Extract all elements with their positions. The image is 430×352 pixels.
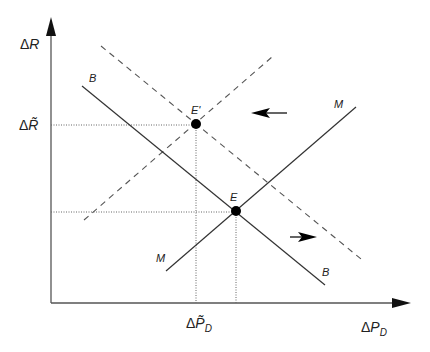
b-shifted-curve [101,46,361,259]
label-b-bottom: B [322,266,329,278]
m-shifted-curve [84,57,272,220]
label-m-bottom: M [156,252,166,264]
label-b-top: B [89,72,96,84]
x-tick-p-tilde: ΔP̃D [186,315,212,334]
point-e-prime [191,119,201,129]
label-e-prime: E' [191,104,201,116]
y-tick-r-tilde: ΔR̃ [19,117,38,133]
m-curve [166,107,356,271]
y-axis-arrowhead [46,17,56,36]
label-m-top: M [334,98,344,110]
x-axis-arrowhead [392,298,411,308]
diagram-canvas: B B M M E' E ΔR ΔR̃ ΔPD ΔP̃D [0,0,430,352]
label-e: E [230,191,238,203]
point-e [231,206,241,216]
y-axis-label: ΔR [20,36,39,52]
x-axis-label: ΔPD [361,319,387,338]
